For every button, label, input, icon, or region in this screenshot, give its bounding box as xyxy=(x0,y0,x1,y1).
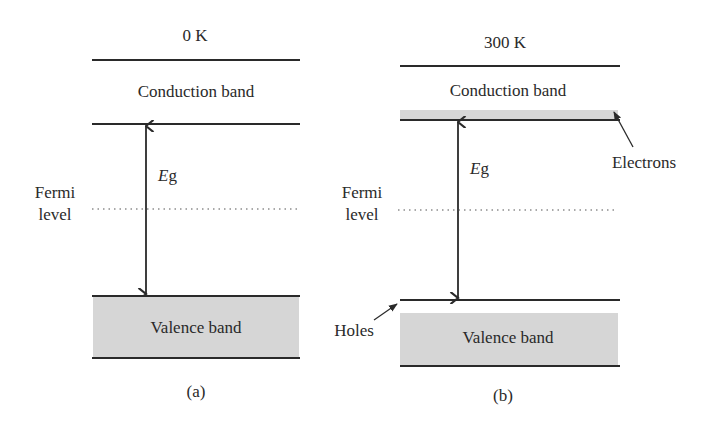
fermi-label-line1-b: Fermi xyxy=(342,183,383,202)
fermi-label-line2-b: level xyxy=(345,205,378,224)
electrons-pointer-arrow-icon xyxy=(614,112,633,147)
electron-population-strip xyxy=(400,110,618,120)
band-gap-subscript-a: g xyxy=(168,166,177,185)
band-gap-label-b: Eg xyxy=(469,159,489,178)
band-gap-label-a: Eg xyxy=(157,166,177,185)
conduction-band-label-a: Conduction band xyxy=(138,82,255,101)
holes-label: Holes xyxy=(334,321,374,340)
caption-a: (a) xyxy=(187,382,206,401)
band-gap-symbol-a: E xyxy=(157,166,169,185)
temperature-label-b: 300 K xyxy=(484,33,527,52)
electrons-label: Electrons xyxy=(612,153,676,172)
panel-b: 300 K Conduction band Eg Fermi level Val… xyxy=(334,33,676,405)
temperature-label-a: 0 K xyxy=(182,26,208,45)
panel-a: 0 K Conduction band Eg Fermi level Valen… xyxy=(35,26,300,401)
holes-pointer-arrow-icon xyxy=(374,304,397,320)
caption-b: (b) xyxy=(493,386,513,405)
band-diagram: 0 K Conduction band Eg Fermi level Valen… xyxy=(0,0,710,426)
valence-band-label-a: Valence band xyxy=(150,318,242,337)
band-gap-subscript-b: g xyxy=(480,159,489,178)
fermi-label-line1-a: Fermi xyxy=(35,183,76,202)
valence-band-label-b: Valence band xyxy=(462,328,554,347)
fermi-label-line2-a: level xyxy=(38,205,71,224)
band-gap-symbol-b: E xyxy=(469,159,481,178)
conduction-band-label-b: Conduction band xyxy=(450,81,567,100)
